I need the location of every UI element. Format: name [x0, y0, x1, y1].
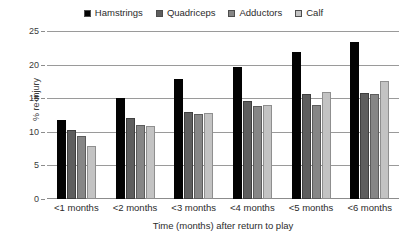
x-axis-tick-label: <1 months	[47, 202, 106, 213]
bar	[302, 94, 311, 199]
legend-label: Quadriceps	[167, 8, 216, 18]
bar	[174, 79, 183, 199]
legend-label: Calf	[306, 8, 323, 18]
bar-group	[164, 31, 223, 199]
y-axis-tick-mark	[41, 31, 45, 32]
bar	[312, 105, 321, 199]
bar	[87, 146, 96, 199]
bar	[350, 42, 359, 199]
bar	[322, 92, 331, 199]
x-axis-tick-labels: <1 months<2 months<3 months<4 months<5 m…	[47, 202, 399, 213]
bar	[370, 94, 379, 199]
bar-layer	[47, 31, 399, 199]
bar-group	[340, 31, 399, 199]
x-axis-tick-label: <4 months	[223, 202, 282, 213]
legend-swatch-icon	[295, 10, 302, 17]
y-axis-title: % re-injury	[32, 60, 41, 140]
x-axis-tick-label: <6 months	[340, 202, 399, 213]
bar	[57, 120, 66, 199]
y-axis-tick-mark	[41, 98, 45, 99]
legend-entry: Adductors	[228, 8, 282, 18]
legend-entry: Hamstrings	[84, 8, 143, 18]
bar-group	[282, 31, 341, 199]
y-axis-tick-mark	[41, 65, 45, 66]
bar	[126, 118, 135, 199]
y-axis-tick-mark	[41, 165, 45, 166]
bar	[184, 112, 193, 199]
bar-chart: HamstringsQuadricepsAdductorsCalf 051015…	[0, 0, 407, 237]
legend-swatch-icon	[84, 10, 91, 17]
y-axis-tick-mark	[41, 132, 45, 133]
bar	[243, 101, 252, 199]
bar	[67, 130, 76, 199]
x-axis-tick-label: <5 months	[282, 202, 341, 213]
legend-swatch-icon	[156, 10, 163, 17]
bar	[136, 125, 145, 199]
bar	[380, 81, 389, 199]
x-axis-title: Time (months) after return to play	[47, 220, 399, 231]
legend-swatch-icon	[228, 10, 235, 17]
bar-group	[47, 31, 106, 199]
legend-entry: Calf	[295, 8, 323, 18]
bar	[77, 136, 86, 199]
y-axis-tick-mark	[41, 199, 45, 200]
y-axis-tick-label: 25	[5, 27, 39, 36]
bar-group	[106, 31, 165, 199]
x-axis-tick-label: <2 months	[106, 202, 165, 213]
chart-legend: HamstringsQuadricepsAdductorsCalf	[0, 8, 407, 18]
bar	[233, 67, 242, 199]
bar	[253, 106, 262, 199]
bar	[360, 93, 369, 199]
bar	[146, 126, 155, 199]
y-axis-tick-label: 0	[5, 195, 39, 204]
bar	[116, 98, 125, 199]
legend-label: Adductors	[239, 8, 282, 18]
bar-group	[223, 31, 282, 199]
legend-label: Hamstrings	[95, 8, 143, 18]
bar	[292, 52, 301, 199]
legend-entry: Quadriceps	[156, 8, 216, 18]
y-axis-tick-label: 5	[5, 161, 39, 170]
bar	[263, 105, 272, 199]
bar	[204, 113, 213, 199]
x-axis-tick-label: <3 months	[164, 202, 223, 213]
bar	[194, 114, 203, 199]
